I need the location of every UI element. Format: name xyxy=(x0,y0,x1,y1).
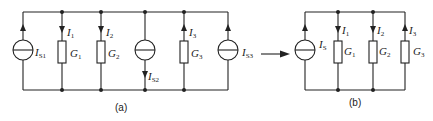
arrow-down-icon xyxy=(59,26,65,33)
svg-text:I2: I2 xyxy=(376,24,385,38)
current-source-is2: IS2 xyxy=(135,12,160,90)
caption-b: (b) xyxy=(349,97,361,108)
svg-text:I1: I1 xyxy=(66,26,75,40)
arrow-down-icon xyxy=(370,26,376,33)
svg-text:G3: G3 xyxy=(413,45,425,59)
svg-text:G2: G2 xyxy=(379,45,391,59)
svg-text:IS: IS xyxy=(318,38,327,52)
conductance-g2-b: I2 G2 xyxy=(369,12,391,90)
arrow-up-icon xyxy=(225,24,231,31)
circuit-b: IS I1 G1 I2 G2 I3 G3 xyxy=(295,10,425,108)
svg-text:I3: I3 xyxy=(408,24,417,38)
arrow-up-icon xyxy=(20,24,26,31)
svg-text:I3: I3 xyxy=(188,26,197,40)
arrow-up-icon xyxy=(302,24,308,31)
svg-text:G1: G1 xyxy=(70,47,82,61)
node-dots-a xyxy=(60,10,186,92)
circuit-a: IS1 I1 G1 I2 G2 IS2 xyxy=(13,10,254,113)
caption-a: (a) xyxy=(115,102,127,113)
arrow-up-icon xyxy=(402,24,408,31)
circuit-diagram: IS1 I1 G1 I2 G2 IS2 xyxy=(0,0,433,121)
current-source-is: IS xyxy=(295,12,327,90)
svg-text:IS3: IS3 xyxy=(241,46,254,60)
current-source-is1: IS1 xyxy=(13,12,47,90)
conductance-g1-b: I1 G1 xyxy=(334,12,356,90)
svg-text:I2: I2 xyxy=(105,26,114,40)
conductance-g2-a: I2 G2 xyxy=(97,12,120,90)
svg-text:IS2: IS2 xyxy=(147,70,160,84)
conductance-g3-a: I3 G3 xyxy=(180,12,203,90)
arrow-down-icon xyxy=(335,26,341,33)
arrow-down-icon xyxy=(98,26,104,33)
transform-arrow-icon xyxy=(261,51,290,58)
svg-text:G3: G3 xyxy=(191,47,203,61)
svg-text:G2: G2 xyxy=(108,47,120,61)
svg-text:G1: G1 xyxy=(344,45,356,59)
current-source-is3: IS3 xyxy=(218,12,254,90)
conductance-g3-b: I3 G3 xyxy=(401,12,425,90)
svg-text:IS1: IS1 xyxy=(34,46,47,60)
svg-text:I1: I1 xyxy=(341,24,350,38)
arrow-up-icon xyxy=(181,24,187,31)
conductance-g1-a: I1 G1 xyxy=(58,12,82,90)
